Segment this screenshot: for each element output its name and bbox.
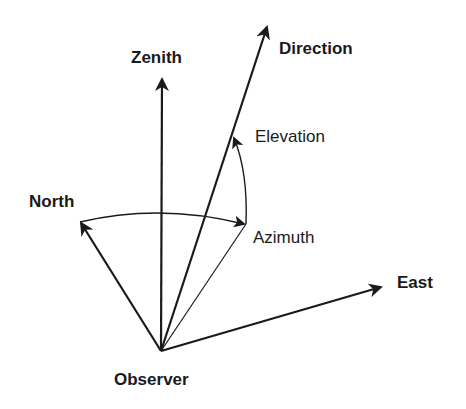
east-label: East: [397, 274, 433, 291]
zenith-label: Zenith: [131, 49, 182, 66]
zenith-arrow: [161, 79, 162, 351]
elevation-label: Elevation: [255, 128, 325, 145]
north-label: North: [29, 193, 74, 210]
direction-label: Direction: [279, 40, 353, 57]
direction-arrow: [161, 27, 267, 351]
elevation-arc: [234, 138, 246, 224]
north-arrow: [81, 223, 161, 351]
azimuth-label: Azimuth: [253, 229, 314, 246]
diagram-canvas: Zenith Direction Elevation North Azimuth…: [0, 0, 466, 409]
east-arrow: [161, 287, 381, 351]
projection-line: [161, 224, 246, 351]
observer-label: Observer: [114, 371, 189, 388]
